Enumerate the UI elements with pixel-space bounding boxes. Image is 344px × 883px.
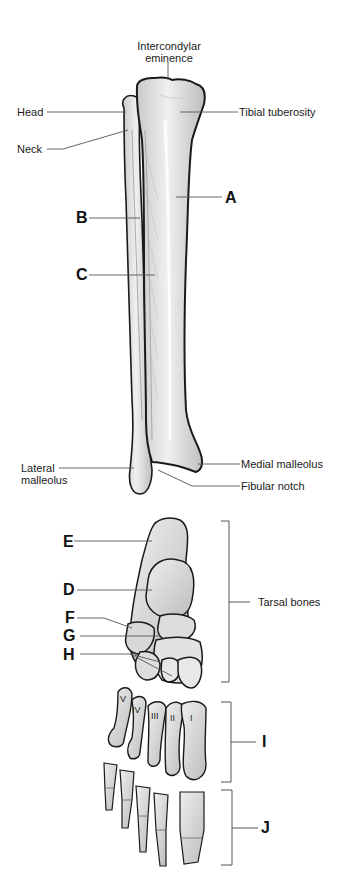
label-line: Intercondylar [131, 40, 207, 52]
metatarsal-numeral-5: V [120, 693, 126, 705]
label-tibial-tuberosity: Tibial tuberosity [239, 106, 316, 118]
label-letter-g: G [63, 628, 75, 644]
label-letter-j: J [261, 820, 270, 836]
metatarsal-numeral-1: I [190, 712, 193, 724]
label-letter-f: F [65, 610, 75, 626]
label-tarsal-bones: Tarsal bones [258, 596, 320, 608]
label-letter-b: B [76, 210, 88, 226]
label-head: Head [17, 106, 43, 118]
label-fibular-notch: Fibular notch [241, 480, 305, 492]
label-letter-e: E [63, 534, 74, 550]
metatarsal-numeral-2: II [170, 712, 175, 724]
label-medial-malleolus: Medial malleolus [241, 458, 323, 470]
label-lateral-malleolus: Lateral malleolus [21, 462, 67, 486]
metatarsal-numeral-3: III [151, 710, 159, 722]
brackets [221, 521, 258, 865]
label-letter-i: I [262, 734, 266, 750]
leg-foot-bones-diagram: Intercondylar eminence Head Neck Tibial … [0, 0, 344, 883]
label-line: eminence [131, 52, 207, 64]
label-line: malleolus [21, 474, 67, 486]
metatarsal-numeral-4: IV [132, 704, 141, 716]
label-line: Lateral [21, 462, 67, 474]
label-letter-a: A [225, 190, 237, 206]
label-neck: Neck [17, 143, 42, 155]
tarsal-bones [126, 518, 202, 688]
label-letter-d: D [63, 582, 75, 598]
label-intercondylar-eminence: Intercondylar eminence [131, 40, 207, 64]
label-letter-h: H [63, 647, 75, 663]
label-letter-c: C [76, 267, 88, 283]
bones-illustration [0, 0, 344, 883]
